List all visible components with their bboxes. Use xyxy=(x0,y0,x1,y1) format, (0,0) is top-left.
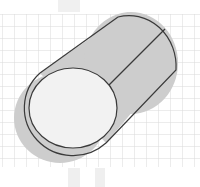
top-smudge xyxy=(58,0,80,12)
bottom-smudge-1 xyxy=(68,168,80,187)
front-face xyxy=(29,68,117,148)
bottom-smudge-2 xyxy=(95,168,105,187)
cylinder-diagram xyxy=(0,0,200,187)
